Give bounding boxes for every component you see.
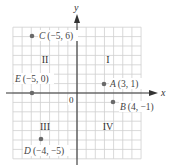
quadrant-label-iii: III — [40, 121, 50, 132]
quadrant-label-iv: IV — [103, 121, 114, 132]
point-d-label: D(−4, −5) — [23, 146, 64, 157]
point-a-name: A — [109, 79, 116, 89]
y-axis-arrow-icon — [74, 14, 80, 23]
point-e-label: E(−5, 0) — [14, 74, 49, 85]
point-a-label: A(3, 1) — [109, 79, 138, 90]
point-a-coords: (3, 1) — [118, 79, 139, 90]
origin-label: 0 — [69, 95, 74, 105]
point-e-name: E — [14, 74, 21, 84]
coordinate-plane: x y 0 I II III IV A(3, 1) B(4, −1) C(−5,… — [0, 0, 171, 168]
point-c-coords: (−5, 6) — [47, 31, 73, 42]
point-c-name: C — [39, 31, 46, 41]
x-axis-arrow-icon — [149, 90, 158, 96]
point-b-name: B — [120, 102, 126, 112]
point-d-coords: (−4, −5) — [33, 146, 64, 157]
point-e-coords: (−5, 0) — [23, 74, 49, 85]
y-axis-label: y — [73, 2, 79, 13]
point-a — [102, 82, 107, 87]
quadrant-label-i: I — [106, 54, 109, 65]
point-e — [30, 91, 35, 96]
point-c — [30, 34, 35, 39]
point-c-label: C(−5, 6) — [39, 31, 73, 42]
point-d-name: D — [23, 146, 31, 156]
point-b-coords: (4, −1) — [128, 102, 154, 113]
point-b — [111, 100, 116, 105]
point-d — [39, 137, 44, 142]
point-b-label: B(4, −1) — [120, 102, 154, 113]
x-axis-label: x — [160, 87, 166, 98]
quadrant-label-ii: II — [42, 54, 49, 65]
